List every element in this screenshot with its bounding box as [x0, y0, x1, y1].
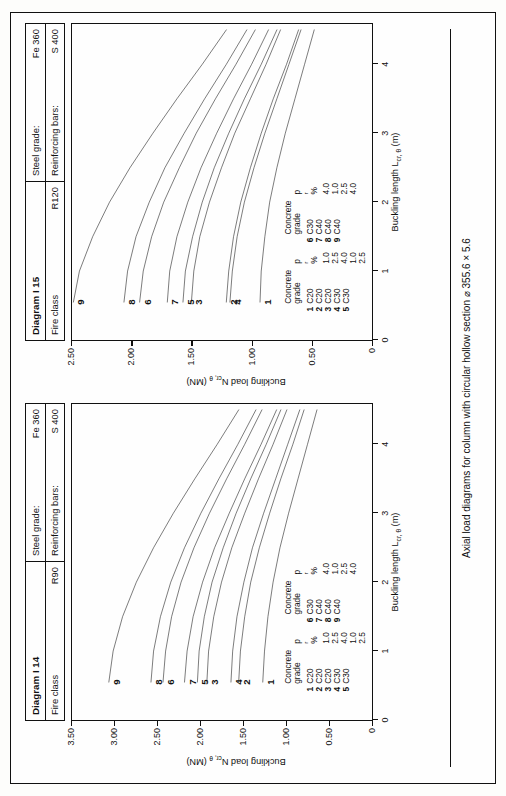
x-tick	[372, 581, 378, 582]
legend-header: pr %	[284, 256, 319, 263]
curve-9	[73, 30, 226, 302]
curve-label-9: 9	[75, 299, 86, 304]
diagram-panel-i14: Diagram I 14 Steel grade: Fe 360 Fire cl…	[25, 395, 429, 767]
y-tick-label: 1.50	[238, 728, 248, 746]
legend-header: pr %	[284, 187, 319, 194]
diagram-panel-i15: Diagram I 15 Steel grade: Fe 360 Fire cl…	[25, 15, 429, 387]
x-tick	[372, 63, 378, 64]
legend-column: 6789	[284, 238, 367, 243]
legend-column: pr %4.01.02.54.0	[284, 183, 367, 195]
diagram-title-cell: Diagram I 14	[26, 562, 45, 720]
curve-3	[207, 410, 287, 682]
legend-cell: 5	[342, 307, 351, 312]
rebar-value: S 400	[49, 409, 60, 485]
x-axis-title-i14: Buckling length Lcr, θ (m)	[390, 513, 402, 612]
x-tick-label: 2	[380, 580, 390, 585]
fire-class-label: Fire class	[49, 295, 60, 335]
legend-header: pr %	[284, 636, 319, 643]
document-sheet: Diagram I 14 Steel grade: Fe 360 Fire cl…	[0, 0, 506, 796]
x-tick	[372, 650, 378, 651]
page-frame: Diagram I 14 Steel grade: Fe 360 Fire cl…	[10, 12, 496, 784]
y-tick	[157, 720, 158, 726]
y-tick	[252, 340, 253, 346]
y-tick	[200, 720, 201, 726]
fire-class-cell: Fire class R90	[46, 562, 65, 720]
y-tick	[329, 720, 330, 726]
curve-label-6: 6	[142, 299, 153, 304]
curve-label-8: 8	[126, 299, 137, 304]
x-tick-label: 0	[380, 337, 390, 342]
header-row-top: Diagram I 15 Steel grade: Fe 360	[26, 24, 45, 340]
legend-cell: C40	[333, 599, 342, 614]
y-tick	[243, 720, 244, 726]
legend-cell: 2.5	[358, 632, 367, 644]
legend-cell: 4.0	[349, 183, 358, 195]
y-tick	[286, 720, 287, 726]
legend-cell: C30	[342, 668, 351, 683]
legend-column: ConcretegradeC20C20C20C30C30	[284, 650, 367, 684]
x-tick	[372, 201, 378, 202]
plot-area-i14: 00.501.001.502.002.503.003.50 01234 1234…	[71, 403, 373, 721]
curve-9	[109, 410, 239, 682]
curve-label-3: 3	[209, 679, 220, 684]
x-tick	[372, 443, 378, 444]
x-tick	[372, 719, 378, 720]
curve-label-9: 9	[111, 679, 122, 684]
curve-8	[151, 410, 256, 682]
plot-i14: 00.501.001.502.002.503.003.50 01234 1234…	[71, 403, 401, 721]
x-tick-label: 1	[380, 269, 390, 274]
x-tick-label: 3	[380, 511, 390, 516]
y-tick-label: 1.00	[247, 348, 257, 366]
y-tick-label: 1.50	[186, 348, 196, 366]
legend-column: pr %4.01.02.54.0	[284, 563, 367, 575]
legend-header	[284, 307, 303, 309]
y-tick	[71, 720, 72, 726]
legend-block: 12345ConcretegradeC20C20C20C30C30 pr %1.…	[284, 632, 367, 691]
legend-cell: 9	[333, 618, 342, 623]
curve-label-6: 6	[165, 679, 176, 684]
curve-label-5: 5	[199, 679, 210, 684]
fire-class-value: R120	[49, 187, 60, 295]
legend-column: pr %1.02.54.01.02.5	[284, 632, 367, 644]
legend-header: Concretegrade	[284, 581, 303, 615]
diagram-header-i14: Diagram I 14 Steel grade: Fe 360 Fire cl…	[25, 403, 65, 721]
legend-i14: 12345ConcretegradeC20C20C20C30C30 pr %1.…	[284, 563, 367, 692]
curve-label-4: 4	[233, 679, 244, 684]
y-tick	[114, 720, 115, 726]
x-tick-label: 4	[380, 62, 390, 67]
curve-label-8: 8	[153, 679, 164, 684]
legend-cell: 2.5	[358, 252, 367, 264]
fire-class-value: R90	[49, 567, 60, 675]
curve-label-4: 4	[232, 299, 243, 304]
header-row-bottom: Fire class R120 Reinforcing bars: S 400	[45, 24, 65, 340]
y-tick	[312, 340, 313, 346]
legend-header	[284, 687, 303, 689]
x-tick-label: 1	[380, 649, 390, 654]
legend-cell: 5	[342, 687, 351, 692]
rebar-cell: Reinforcing bars: S 400	[46, 404, 65, 562]
steel-grade-cell: Steel grade: Fe 360	[26, 404, 45, 562]
curve-6	[163, 410, 262, 682]
legend-column: pr %1.02.54.01.02.5	[284, 252, 367, 264]
legend-header	[284, 618, 303, 620]
steel-grade-label: Steel grade:	[30, 125, 41, 176]
page-caption: Axial load diagrams for column with circ…	[450, 29, 481, 767]
plot-i15: 00.501.001.502.002.50 01234 123456789 12…	[71, 23, 401, 341]
header-row-bottom: Fire class R90 Reinforcing bars: S 400	[45, 404, 65, 720]
x-tick-label: 4	[380, 442, 390, 447]
y-axis-title-i14: Buckling load Ncr, θ (MN)	[186, 755, 285, 767]
curve-label-1: 1	[265, 679, 276, 684]
caption-text: Axial load diagrams for column with circ…	[461, 238, 472, 558]
y-tick-label: 2.50	[66, 348, 76, 366]
y-tick-label: 1.00	[281, 728, 291, 746]
x-tick	[372, 512, 378, 513]
curve-label-7: 7	[169, 299, 180, 304]
legend-column: 6789	[284, 618, 367, 623]
diagram-title: Diagram I 15	[30, 277, 41, 335]
y-tick-label: 2.00	[195, 728, 205, 746]
x-tick	[372, 270, 378, 271]
steel-grade-cell: Steel grade: Fe 360	[26, 24, 45, 182]
y-tick-label: 0	[367, 348, 377, 353]
x-tick-label: 0	[380, 717, 390, 722]
legend-block: 6789ConcretegradeC30C40C40C40 pr %4.01.0…	[284, 563, 367, 622]
